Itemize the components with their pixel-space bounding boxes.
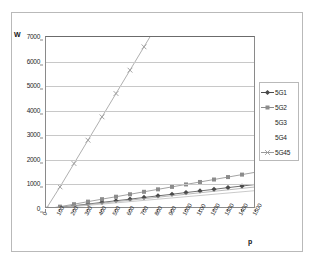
y-axis-tick-label: 3000 xyxy=(27,131,40,138)
data-point-marker xyxy=(156,187,160,191)
data-point-marker xyxy=(142,44,147,49)
data-point-marker xyxy=(100,197,104,201)
legend-marker-swatch xyxy=(264,104,271,111)
series-line xyxy=(46,191,254,207)
legend-marker-swatch xyxy=(264,149,271,156)
legend-item-5G3[interactable]: 5G3 xyxy=(260,115,298,130)
y-axis-tick-label: 2000 xyxy=(27,155,40,162)
gridline xyxy=(46,62,254,63)
data-point-marker xyxy=(266,106,270,110)
data-point-marker xyxy=(86,138,91,143)
y-axis-tick-mark xyxy=(40,187,43,188)
y-axis-tick-mark xyxy=(40,40,43,41)
gridline xyxy=(46,111,254,112)
series-line xyxy=(46,172,254,207)
legend-key-icon xyxy=(260,146,275,160)
legend-item-label: 5G3 xyxy=(275,119,287,126)
y-axis-tick-mark xyxy=(40,162,43,163)
legend-item-label: 5G2 xyxy=(275,104,287,111)
series-5G4 xyxy=(46,191,254,207)
data-point-marker xyxy=(128,192,132,196)
data-point-marker xyxy=(198,180,202,184)
y-axis-tick-label: 6000 xyxy=(27,57,40,64)
data-point-marker xyxy=(170,185,174,189)
gridline xyxy=(46,160,254,161)
data-point-marker xyxy=(212,178,216,182)
data-point-marker xyxy=(265,150,270,155)
data-point-marker xyxy=(114,91,119,96)
gridline xyxy=(46,184,254,185)
gridline xyxy=(46,135,254,136)
data-point-marker xyxy=(72,161,77,166)
y-axis-tick-label: 1000 xyxy=(27,180,40,187)
legend-key-icon xyxy=(260,131,275,145)
x-axis-title: p xyxy=(248,238,252,245)
data-point-marker xyxy=(142,190,146,194)
legend-key-icon xyxy=(260,101,275,115)
y-axis-tick-label: 0 xyxy=(37,205,40,212)
data-point-marker xyxy=(240,173,244,177)
y-axis-tick-mark xyxy=(40,138,43,139)
y-axis-tick-labels: 01000200030004000500060007000 xyxy=(6,36,42,208)
legend-key-icon xyxy=(260,116,275,130)
legend-marker-swatch xyxy=(264,89,271,96)
data-point-marker xyxy=(114,195,118,199)
data-point-marker xyxy=(128,68,133,73)
legend-item-5G2[interactable]: 5G2 xyxy=(260,100,298,115)
data-point-marker xyxy=(100,114,105,119)
plot-area xyxy=(45,36,255,208)
legend-key-icon xyxy=(260,86,275,100)
data-point-marker xyxy=(265,90,270,95)
data-point-marker xyxy=(127,197,132,202)
data-point-marker xyxy=(86,200,90,204)
gridline xyxy=(46,86,254,87)
y-axis-tick-label: 7000 xyxy=(27,33,40,40)
legend-item-5G4[interactable]: 5G4 xyxy=(260,130,298,145)
y-axis-tick-mark xyxy=(40,113,43,114)
x-axis-tick-labels: 0100200300400500600700800900100011001200… xyxy=(45,209,257,239)
y-axis-tick-label: 4000 xyxy=(27,106,40,113)
legend-item-5G45[interactable]: 5G45 xyxy=(260,145,298,160)
legend-item-label: 5G4 xyxy=(275,134,287,141)
y-axis-tick-mark xyxy=(40,89,43,90)
y-axis-tick-label: 5000 xyxy=(27,82,40,89)
plot-inner xyxy=(46,37,254,207)
legend-item-label: 5G45 xyxy=(275,149,290,156)
legend-item-5G1[interactable]: 5G1 xyxy=(260,85,298,100)
y-axis-tick-mark xyxy=(40,64,43,65)
chart-legend: 5G15G25G35G45G45 xyxy=(259,82,299,161)
legend-item-label: 5G1 xyxy=(275,89,287,96)
data-point-marker xyxy=(226,175,230,179)
chart-figure: W 01000200030004000500060007000 01002003… xyxy=(0,0,315,266)
